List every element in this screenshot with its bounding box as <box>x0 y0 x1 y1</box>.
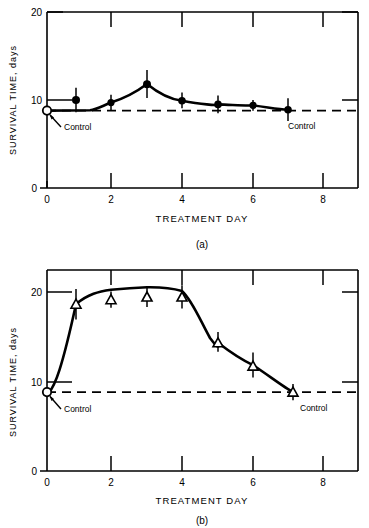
control-label-left: Control <box>64 122 92 132</box>
data-series-a <box>47 70 292 121</box>
control-point-marker-a <box>43 106 51 114</box>
chart-panel-b: Control Control 20 10 0 0 2 4 6 8 TREATM… <box>0 264 369 528</box>
x-axis-title-b: TREATMENT DAY <box>156 495 249 506</box>
y-tick-label-10: 10 <box>31 377 43 388</box>
y-axis-ticks-a <box>40 12 358 188</box>
x-tick-label-4: 4 <box>179 477 185 488</box>
control-label-right: Control <box>300 403 328 413</box>
plot-frame-a <box>47 12 358 188</box>
panel-label-b: (b) <box>196 515 208 526</box>
chart-a-svg: Control Control 20 10 0 0 2 4 6 8 TREATM… <box>0 0 369 264</box>
data-point <box>284 106 292 114</box>
control-label-right: Control <box>288 121 316 131</box>
x-tick-label-6: 6 <box>250 477 256 488</box>
x-tick-label-6: 6 <box>250 194 256 205</box>
y-axis-title-a: SURVIVAL TIME, days <box>8 45 18 155</box>
y-axis-title-b: SURVIVAL TIME, days <box>8 327 18 437</box>
x-tick-label-4: 4 <box>179 194 185 205</box>
control-point-marker-b <box>43 388 51 396</box>
x-tick-label-2: 2 <box>108 477 114 488</box>
y-tick-label-20: 20 <box>31 7 43 18</box>
x-tick-label-0: 0 <box>44 477 50 488</box>
panel-label-a: (a) <box>196 239 208 250</box>
y-tick-label-0: 0 <box>31 466 37 477</box>
plot-frame-b <box>47 270 358 471</box>
x-axis-title-a: TREATMENT DAY <box>156 213 249 224</box>
y-tick-label-20: 20 <box>31 287 43 298</box>
data-point <box>142 292 152 301</box>
x-tick-label-8: 8 <box>320 477 326 488</box>
x-tick-label-2: 2 <box>108 194 114 205</box>
data-point <box>249 102 256 109</box>
y-tick-label-0: 0 <box>31 183 37 194</box>
control-annotation-left-b: Control <box>50 396 92 415</box>
x-tick-label-8: 8 <box>320 194 326 205</box>
chart-panel-a: Control Control 20 10 0 0 2 4 6 8 TREATM… <box>0 0 369 264</box>
chart-b-svg: Control Control 20 10 0 0 2 4 6 8 TREATM… <box>0 264 369 528</box>
data-series-b <box>49 285 298 400</box>
data-point <box>72 96 80 104</box>
data-point <box>178 97 186 105</box>
data-point <box>107 99 114 106</box>
control-annotation-left-a: Control <box>50 114 92 132</box>
x-tick-label-0: 0 <box>44 194 50 205</box>
control-label-left: Control <box>64 404 92 414</box>
y-tick-label-10: 10 <box>31 95 43 106</box>
data-point <box>106 295 116 304</box>
data-point-marker-group-b <box>71 292 298 396</box>
data-point <box>214 101 222 109</box>
data-point <box>143 80 151 88</box>
